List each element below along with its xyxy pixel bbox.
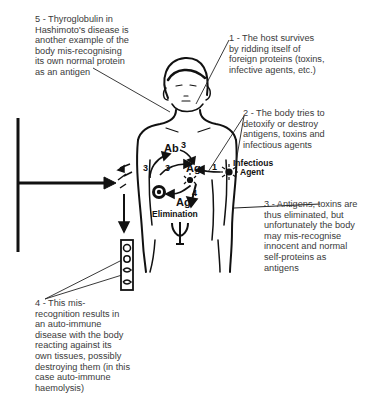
note-4-autoimmune: 4 - This mis- recognition results in an … bbox=[35, 298, 130, 393]
step-3-label-ab: 3 bbox=[181, 140, 186, 150]
human-figure-head bbox=[164, 58, 211, 112]
antigen-label-top: Ag bbox=[186, 162, 201, 174]
leader-line-1 bbox=[196, 40, 229, 104]
step-1-label: 1 bbox=[212, 162, 217, 172]
step-3-label-mid: 3 bbox=[165, 163, 170, 173]
step-3-label-left: 3 bbox=[143, 163, 148, 173]
antibody-label: Ab bbox=[164, 142, 179, 154]
antigen-label-bottom: Ag bbox=[176, 196, 191, 208]
antigen-burst bbox=[184, 173, 196, 187]
note-1-host-survives: 1 - The host survives by ridding itself … bbox=[229, 33, 325, 75]
leader-line-4b bbox=[45, 275, 122, 299]
note-3-antigens-eliminated: 3 - Antigens, toxins are thus eliminated… bbox=[264, 199, 357, 273]
leader-line-4a bbox=[45, 260, 122, 299]
note-2-body-tries: 2 - The body tries to detoxify or destro… bbox=[243, 108, 325, 150]
elimination-label: Elimination bbox=[152, 209, 198, 219]
step-4-label: 4 bbox=[192, 188, 197, 198]
red-blood-cells-strip bbox=[121, 240, 133, 290]
agent-label: Agent bbox=[240, 167, 264, 177]
note-5-thyroglobulin: 5 - Thyroglobulin in Hashimoto's disease… bbox=[35, 14, 129, 78]
excretion-symbol bbox=[172, 222, 188, 244]
target-cell bbox=[152, 185, 166, 199]
